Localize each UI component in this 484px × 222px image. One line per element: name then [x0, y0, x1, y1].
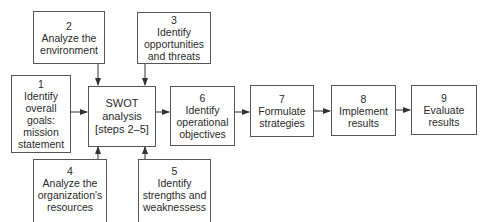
node-2-analyze-environment: 2 Analyze the environment — [33, 11, 105, 64]
node-text: Identify — [186, 104, 220, 116]
node-text: Identify — [24, 90, 58, 102]
node-text: results — [429, 116, 460, 128]
node-text: objectives — [179, 128, 226, 140]
node-text: Analyze the — [42, 32, 97, 44]
node-text: strategies — [259, 117, 305, 129]
node-4-organization-resources: 4 Analyze the organization's resources — [33, 159, 107, 222]
node-text: environment — [40, 44, 98, 56]
node-3-opportunities-threats: 3 Identify opportunities and threats — [137, 12, 211, 64]
node-text: statement — [18, 138, 64, 150]
node-text: resources — [47, 201, 93, 213]
node-number: 6 — [200, 92, 206, 104]
node-text: Identify — [157, 26, 191, 38]
node-9-evaluate-results: 9 Evaluate results — [411, 85, 477, 135]
node-text: results — [348, 117, 379, 129]
node-number: 2 — [66, 20, 72, 32]
node-text: Implement — [339, 105, 388, 117]
node-text: mission — [23, 126, 59, 138]
node-number: 1 — [38, 78, 44, 90]
node-6-operational-objectives: 6 Identify operational objectives — [170, 86, 235, 146]
node-text: Identify — [158, 177, 192, 189]
node-number: 7 — [279, 93, 285, 105]
node-5-strengths-weaknesses: 5 Identify strengths and weaknessess — [138, 159, 211, 222]
node-text: strengths and — [143, 189, 207, 201]
node-number: 9 — [441, 92, 447, 104]
node-number: 4 — [67, 165, 73, 177]
node-1-identify-goals: 1 Identify overall goals: mission statem… — [11, 75, 71, 153]
node-text: SWOT — [106, 97, 139, 110]
node-text: overall — [26, 102, 57, 114]
node-text: Analyze the — [43, 177, 98, 189]
node-text: Formulate — [258, 105, 305, 117]
node-number: 8 — [361, 93, 367, 105]
node-text: operational — [177, 116, 229, 128]
node-text: analysis — [102, 110, 142, 123]
node-text: opportunities — [144, 38, 204, 50]
node-text: and threats — [148, 50, 201, 62]
node-text: organization's — [38, 189, 102, 201]
node-text: Evaluate — [424, 104, 465, 116]
node-8-implement-results: 8 Implement results — [331, 85, 396, 136]
node-text: goals: — [27, 114, 55, 126]
node-number: 3 — [171, 14, 177, 26]
node-7-formulate-strategies: 7 Formulate strategies — [250, 85, 314, 137]
node-swot-analysis: SWOT analysis [steps 2–5] — [88, 86, 156, 147]
node-text: weaknessess — [143, 201, 206, 213]
node-number: 5 — [172, 165, 178, 177]
node-text: [steps 2–5] — [95, 123, 149, 136]
